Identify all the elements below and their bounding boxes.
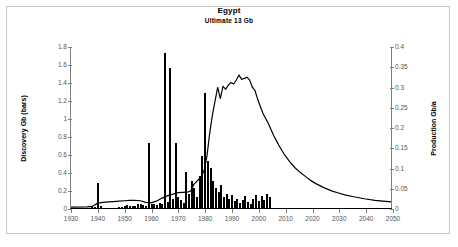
y-right-tick-label: 0.2 — [395, 124, 404, 131]
x-tick-label: 1950 — [117, 215, 131, 222]
x-tickmark — [125, 209, 126, 213]
x-tickmark — [366, 209, 367, 213]
y-axis-left-label-text: Discovery Gb (bars) — [20, 95, 27, 162]
chart-subtitle: Ultimate 13 Gb — [0, 17, 458, 24]
x-tick-label: 1990 — [225, 215, 239, 222]
x-tick-label: 1930 — [64, 215, 78, 222]
y-left-tick-label: 0.8 — [58, 133, 67, 140]
y-right-tick-label: 0.4 — [395, 43, 404, 50]
y-axis-right-label-text: Production Gb/a — [430, 101, 437, 155]
x-tickmark — [152, 209, 153, 213]
y-left-tick-label: 1.6 — [58, 61, 67, 68]
y-left-tick-label: 1.2 — [58, 97, 67, 104]
y-right-tick-label: 0.25 — [395, 104, 408, 111]
y-left-tick-label: 1.4 — [58, 79, 67, 86]
y-right-tick-label: 0.3 — [395, 84, 404, 91]
x-tickmark — [71, 209, 72, 213]
x-tickmark — [393, 209, 394, 213]
y-right-tick-label: 0.15 — [395, 144, 408, 151]
x-tick-label: 1960 — [144, 215, 158, 222]
x-tick-label: 1970 — [171, 215, 185, 222]
production-line — [71, 75, 391, 207]
x-tickmark — [259, 209, 260, 213]
y-right-tick-label: 0 — [395, 205, 399, 212]
y-right-tick-label: 0.05 — [395, 185, 408, 192]
x-tick-label: 1940 — [91, 215, 105, 222]
y-left-tick-label: 0.4 — [58, 169, 67, 176]
plot-area: 00.20.40.60.811.21.41.61.8 00.050.10.150… — [70, 47, 392, 209]
y-left-tick-label: 0.2 — [58, 187, 67, 194]
x-tickmark — [98, 209, 99, 213]
x-tickmark — [232, 209, 233, 213]
y-left-tick-label: 1 — [63, 115, 67, 122]
y-left-tick-label: 0.6 — [58, 151, 67, 158]
x-tick-label: 2040 — [359, 215, 373, 222]
x-tickmark — [313, 209, 314, 213]
production-curve — [71, 47, 391, 208]
x-tickmark — [339, 209, 340, 213]
chart-title: Egypt — [0, 6, 458, 15]
chart-figure: Egypt Ultimate 13 Gb Discovery Gb (bars)… — [0, 0, 458, 247]
x-tick-label: 1980 — [198, 215, 212, 222]
y-right-tick-label: 0.35 — [395, 63, 408, 70]
y-right-tick-label: 0.1 — [395, 165, 404, 172]
x-tickmark — [286, 209, 287, 213]
y-axis-left-label: Discovery Gb (bars) — [18, 47, 29, 209]
y-left-tick-label: 1.8 — [58, 43, 67, 50]
x-tickmark — [178, 209, 179, 213]
x-tick-label: 2020 — [305, 215, 319, 222]
x-tick-label: 2010 — [278, 215, 292, 222]
x-tick-label: 2050 — [386, 215, 400, 222]
x-tickmark — [205, 209, 206, 213]
y-left-tick-label: 0 — [63, 205, 67, 212]
x-tick-label: 2000 — [252, 215, 266, 222]
y-axis-right-label: Production Gb/a — [428, 47, 439, 209]
x-tick-label: 2030 — [332, 215, 346, 222]
